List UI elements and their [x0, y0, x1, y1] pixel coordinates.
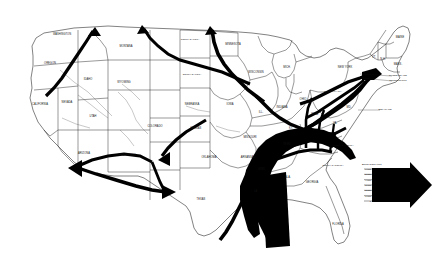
state-label-michigan: MICH. [283, 65, 291, 69]
state-label-arkansas: ARKANSAS [241, 155, 256, 159]
state-label-florida: FLORIDA [332, 222, 344, 226]
callout-label-rhode-island: RHODE ISLAND [389, 74, 407, 76]
state-label-louisiana: LA. [254, 189, 258, 193]
map-svg: WASHINGTONOREGONCALIFORNIAIDAHONEVADAMON… [0, 0, 437, 263]
state-label-maine: MAINE [396, 35, 405, 39]
state-label-alabama: ALA. [285, 175, 291, 179]
state-label-west-virginia: W.VA. [311, 112, 318, 116]
state-label-texas: TEXAS [197, 197, 206, 201]
state-label-pennsylvania: PENNSYLVANIA [324, 90, 342, 92]
state-label-wyoming: WYOMING [117, 80, 130, 84]
state-label-oregon: OREGON [44, 61, 56, 65]
state-label-massachusetts: MASS. [394, 62, 403, 66]
legend-arrow-icon [372, 162, 432, 208]
state-label-iowa: IOWA [226, 102, 233, 106]
state-label-idaho: IDAHO [84, 77, 92, 81]
legend-tick-label: 5,000 [365, 173, 371, 176]
state-label-new-hampshire: N.H. [380, 57, 386, 61]
state-label-nebraska: NEBRASKA [185, 102, 200, 106]
legend: Billion Cubic Feet 6,0005,0004,0003,0002… [362, 162, 432, 208]
state-label-washington: WASHINGTON [53, 32, 71, 36]
state-label-indiana: INDIANA [277, 105, 288, 109]
callout-label-connecticut: CONNECTICUT [389, 79, 407, 81]
state-label-nevada: NEVADA [62, 100, 73, 104]
state-label-new-mexico: NEW MEXICO [118, 153, 136, 157]
state-label-missouri: MISSOURI [243, 135, 256, 139]
state-label-south-dakota: SOUTH DAKOTA [183, 73, 202, 75]
state-label-california: CALIFORNIA [32, 102, 48, 106]
legend-tick-label: 6,000 [365, 168, 371, 171]
state-label-oklahoma: OKLAHOMA [201, 155, 216, 159]
legend-tick-label: 4,000 [365, 179, 371, 182]
flow-gulf-column [262, 172, 290, 248]
state-label-utah: UTAH [89, 114, 96, 118]
state-label-minnesota: MINNESOTA [225, 42, 241, 46]
state-label-north-dakota: NORTH DAKOTA [181, 38, 200, 40]
state-label-new-york: NEW YORK [338, 65, 353, 69]
state-label-wisconsin: WISCONSIN [248, 70, 264, 74]
us-gas-flow-map-figure: WASHINGTONOREGONCALIFORNIAIDAHONEVADAMON… [0, 0, 437, 263]
state-label-virginia: VA. [333, 121, 337, 125]
state-label-georgia: GEORGIA [306, 180, 319, 184]
state-label-maryland: MD. [347, 105, 352, 109]
callout-label-delaware: DELAWARE [378, 108, 392, 110]
legend-tick-label: 1,000 [365, 195, 371, 198]
state-label-mississippi: MISS. [258, 167, 266, 171]
state-label-tennessee: TENN. [283, 142, 291, 146]
legend-title: Billion Cubic Feet [362, 163, 382, 166]
state-label-arizona: ARIZONA [78, 151, 90, 155]
state-label-colorado: COLORADO [147, 124, 162, 128]
state-label-montana: MONTANA [119, 44, 132, 48]
legend-tick-label: 2,000 [365, 189, 371, 192]
legend-tick-label: 3,000 [365, 184, 371, 187]
state-label-illinois: ILL. [259, 110, 264, 114]
state-label-ohio: OHIO [300, 97, 307, 101]
state-label-south-carolina: SOUTH CAROLINA [322, 164, 344, 166]
state-label-kansas: KANSAS [191, 126, 202, 130]
state-label-kentucky: KY. [289, 126, 293, 130]
state-label-vermont: VT. [372, 55, 376, 59]
state-label-north-carolina: NORTH CAROLINA [332, 144, 354, 146]
